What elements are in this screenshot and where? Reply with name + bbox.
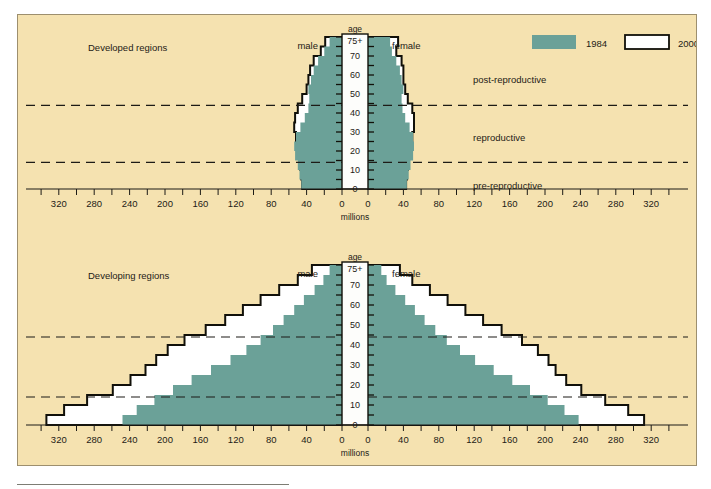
x-tick-label: 280 (608, 434, 624, 445)
male-label: male (297, 40, 318, 51)
x-tick-label: 40 (398, 434, 409, 445)
x-tick-label: 120 (228, 198, 244, 209)
zone-label: pre-reproductive (473, 180, 542, 191)
x-tick-label: 240 (572, 434, 588, 445)
x-axis-title: millions (341, 212, 369, 222)
x-tick-label: 240 (572, 198, 588, 209)
female-label: female (392, 268, 421, 279)
x-tick-label: 0 (339, 434, 344, 445)
x-tick-label: 200 (537, 198, 553, 209)
legend-label-2000: 2000 (678, 38, 696, 49)
x-tick-label: 0 (365, 198, 370, 209)
x-tick-label: 40 (301, 198, 312, 209)
legend-label-1984: 1984 (586, 38, 607, 49)
x-tick-label: 120 (466, 434, 482, 445)
x-tick-label: 320 (51, 434, 67, 445)
male-label: male (297, 268, 318, 279)
age-tick-label: 40 (350, 108, 360, 118)
population-pyramid-figure: 01020304050607075+age3202802402001601208… (18, 15, 696, 465)
x-tick-label: 320 (643, 434, 659, 445)
age-tick-label: 75+ (347, 36, 362, 46)
age-axis-title: age (348, 252, 362, 262)
zone-label: reproductive (473, 132, 525, 143)
age-tick-label: 30 (350, 127, 360, 137)
x-axis-title: millions (341, 448, 369, 458)
x-tick-label: 320 (51, 198, 67, 209)
age-tick-label: 20 (350, 380, 360, 390)
legend-swatch-1984 (532, 35, 576, 49)
age-tick-label: 60 (350, 300, 360, 310)
age-tick-label: 20 (350, 146, 360, 156)
age-tick-label: 75+ (347, 264, 362, 274)
legend-swatch-2000 (625, 35, 669, 49)
x-tick-label: 160 (502, 198, 518, 209)
age-tick-label: 10 (350, 165, 360, 175)
age-tick-label: 40 (350, 340, 360, 350)
x-tick-label: 80 (266, 434, 277, 445)
female-label: female (392, 40, 421, 51)
x-tick-label: 160 (192, 434, 208, 445)
chart-title: Developed regions (88, 42, 167, 53)
x-tick-label: 240 (122, 198, 138, 209)
x-tick-label: 160 (502, 434, 518, 445)
age-tick-label: 10 (350, 400, 360, 410)
age-tick-label: 30 (350, 360, 360, 370)
x-tick-label: 200 (157, 198, 173, 209)
x-tick-label: 240 (122, 434, 138, 445)
x-tick-label: 120 (228, 434, 244, 445)
x-tick-label: 320 (643, 198, 659, 209)
figure-panel: 01020304050607075+age3202802402001601208… (17, 14, 697, 466)
chart-title: Developing regions (88, 270, 170, 281)
x-tick-label: 40 (398, 198, 409, 209)
x-tick-label: 0 (339, 198, 344, 209)
age-tick-label: 50 (350, 89, 360, 99)
age-tick-label: 70 (350, 280, 360, 290)
x-tick-label: 200 (157, 434, 173, 445)
x-tick-label: 160 (192, 198, 208, 209)
x-tick-label: 80 (266, 198, 277, 209)
age-tick-label: 70 (350, 51, 360, 61)
age-axis-title: age (348, 24, 362, 34)
x-tick-label: 280 (86, 198, 102, 209)
x-tick-label: 80 (434, 434, 445, 445)
x-tick-label: 40 (301, 434, 312, 445)
age-tick-label: 50 (350, 320, 360, 330)
age-tick-label: 60 (350, 70, 360, 80)
x-tick-label: 280 (608, 198, 624, 209)
x-tick-label: 120 (466, 198, 482, 209)
x-tick-label: 200 (537, 434, 553, 445)
zone-label: post-reproductive (473, 74, 546, 85)
footer-rule (17, 484, 289, 485)
x-tick-label: 280 (86, 434, 102, 445)
x-tick-label: 80 (434, 198, 445, 209)
x-tick-label: 0 (365, 434, 370, 445)
